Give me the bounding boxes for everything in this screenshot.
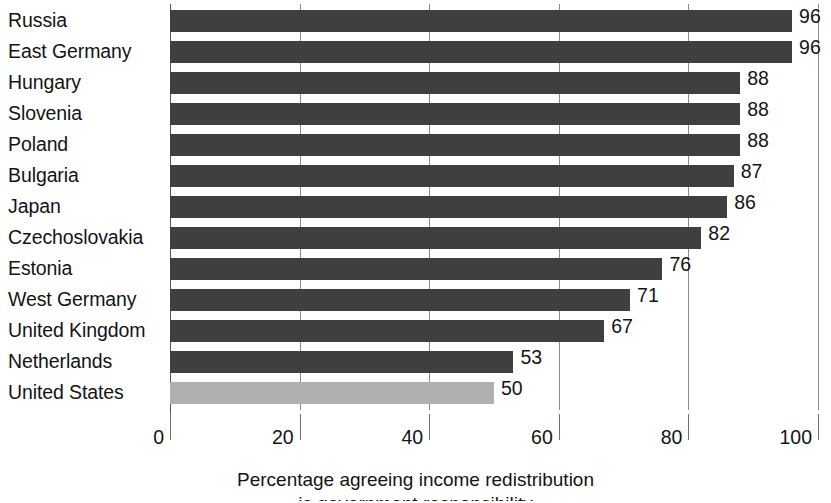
bar-row: Czechoslovakia82 xyxy=(0,223,831,254)
category-label-poland: Poland xyxy=(8,130,166,161)
bar-value-label: 67 xyxy=(604,316,633,338)
bar-container xyxy=(170,10,792,32)
x-axis: 020406080100 xyxy=(0,414,831,454)
bar-container xyxy=(170,320,604,342)
bar-estonia xyxy=(170,258,662,280)
x-tick-mark-100 xyxy=(818,414,819,440)
bar-value-label: 87 xyxy=(734,161,763,183)
bar-row: Bulgaria87 xyxy=(0,161,831,192)
bar-container xyxy=(170,103,740,125)
bar-row: West Germany71 xyxy=(0,285,831,316)
category-label-czechoslovakia: Czechoslovakia xyxy=(8,223,166,254)
bar-west-germany xyxy=(170,289,630,311)
bar-container xyxy=(170,289,630,311)
x-tick-mark-20 xyxy=(300,414,301,440)
x-tick-label-100: 100 xyxy=(754,426,812,449)
bar-row: Russia96 xyxy=(0,6,831,37)
bar-value-label: 88 xyxy=(740,99,769,121)
category-label-russia: Russia xyxy=(8,6,166,37)
category-label-bulgaria: Bulgaria xyxy=(8,161,166,192)
bar-row: Slovenia88 xyxy=(0,99,831,130)
category-label-japan: Japan xyxy=(8,192,166,223)
bar-container xyxy=(170,196,727,218)
bar-chart: Russia96East Germany96Hungary88Slovenia8… xyxy=(0,0,831,503)
bar-slovenia xyxy=(170,103,740,125)
bar-row: Japan86 xyxy=(0,192,831,223)
bar-value-label: 96 xyxy=(792,37,821,59)
x-tick-label-60: 60 xyxy=(495,426,553,449)
bar-value-label: 86 xyxy=(727,192,756,214)
x-tick-label-40: 40 xyxy=(365,426,423,449)
x-axis-title: Percentage agreeing income redistributio… xyxy=(0,468,831,501)
bar-hungary xyxy=(170,72,740,94)
bar-row: Hungary88 xyxy=(0,68,831,99)
bar-value-label: 96 xyxy=(792,6,821,28)
bar-value-label: 88 xyxy=(740,68,769,90)
x-tick-label-20: 20 xyxy=(236,426,294,449)
bar-value-label: 71 xyxy=(630,285,659,307)
category-label-hungary: Hungary xyxy=(8,68,166,99)
bar-container xyxy=(170,382,494,404)
bar-value-label: 53 xyxy=(513,347,542,369)
bar-united-kingdom xyxy=(170,320,604,342)
bar-container xyxy=(170,227,701,249)
x-tick-mark-60 xyxy=(559,414,560,440)
bar-united-states xyxy=(170,382,494,404)
x-axis-title-line-2: is government responsibility xyxy=(0,492,831,501)
bar-container xyxy=(170,72,740,94)
bar-value-label: 82 xyxy=(701,223,730,245)
bar-row: United States50 xyxy=(0,378,831,409)
bar-row: Estonia76 xyxy=(0,254,831,285)
bar-row: Netherlands53 xyxy=(0,347,831,378)
category-label-west-germany: West Germany xyxy=(8,285,166,316)
bar-netherlands xyxy=(170,351,513,373)
bar-bulgaria xyxy=(170,165,734,187)
x-tick-mark-0 xyxy=(170,414,171,440)
category-label-netherlands: Netherlands xyxy=(8,347,166,378)
category-label-slovenia: Slovenia xyxy=(8,99,166,130)
bar-row: East Germany96 xyxy=(0,37,831,68)
bar-russia xyxy=(170,10,792,32)
bar-row: United Kingdom67 xyxy=(0,316,831,347)
x-axis-title-line-1: Percentage agreeing income redistributio… xyxy=(0,468,831,492)
bar-value-label: 88 xyxy=(740,130,769,152)
category-label-east-germany: East Germany xyxy=(8,37,166,68)
bar-container xyxy=(170,165,734,187)
bar-japan xyxy=(170,196,727,218)
bar-row: Poland88 xyxy=(0,130,831,161)
bar-czechoslovakia xyxy=(170,227,701,249)
x-tick-label-0: 0 xyxy=(106,426,164,449)
bar-container xyxy=(170,134,740,156)
bar-east-germany xyxy=(170,41,792,63)
category-label-united-kingdom: United Kingdom xyxy=(8,316,166,347)
x-tick-mark-40 xyxy=(429,414,430,440)
x-tick-mark-80 xyxy=(688,414,689,440)
bar-container xyxy=(170,41,792,63)
bar-poland xyxy=(170,134,740,156)
x-tick-label-80: 80 xyxy=(624,426,682,449)
bar-container xyxy=(170,351,513,373)
bar-value-label: 76 xyxy=(662,254,691,276)
category-label-estonia: Estonia xyxy=(8,254,166,285)
bar-value-label: 50 xyxy=(494,378,523,400)
category-label-united-states: United States xyxy=(8,378,166,409)
bar-container xyxy=(170,258,662,280)
